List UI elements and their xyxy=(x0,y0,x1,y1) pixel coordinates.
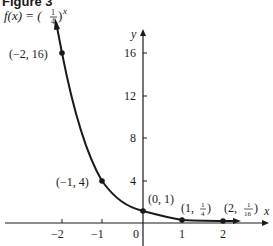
x-tick-1: 1 xyxy=(179,227,185,241)
svg-text:4: 4 xyxy=(51,17,55,26)
svg-text:): ) xyxy=(58,8,62,23)
function-label: f(x) = ( xyxy=(4,8,42,23)
y-tick-8: 8 xyxy=(130,131,136,145)
function-fraction: 1 4 ) x xyxy=(50,6,67,26)
x-tick-0: 0 xyxy=(133,227,139,241)
label-point-neg1: (−1, 4) xyxy=(56,175,89,189)
function-curve xyxy=(56,22,235,221)
y-tick-12: 12 xyxy=(124,89,136,103)
svg-text:(2,: (2, xyxy=(224,201,237,215)
point-neg1 xyxy=(99,178,105,184)
svg-text:): ) xyxy=(207,201,211,215)
y-axis-label: y xyxy=(130,27,137,41)
svg-text:): ) xyxy=(254,201,258,215)
exponential-graph: Figure 3 f(x) = ( 1 4 ) x x −2 −1 0 1 2 … xyxy=(0,0,273,246)
svg-text:4: 4 xyxy=(201,210,205,218)
point-neg2 xyxy=(59,50,65,56)
point-0 xyxy=(140,208,146,214)
label-point-neg2: (−2, 16) xyxy=(9,47,48,61)
svg-text:16: 16 xyxy=(244,210,252,218)
svg-text:(1,: (1, xyxy=(181,201,194,215)
x-tick-2: 2 xyxy=(220,227,226,241)
point-1 xyxy=(179,217,185,223)
x-axis-label: x xyxy=(263,204,270,218)
label-point-1: (1, 1 4 ) xyxy=(181,201,211,218)
y-tick-16: 16 xyxy=(124,46,136,60)
svg-text:x: x xyxy=(62,6,67,16)
x-tick-neg2: −2 xyxy=(51,227,64,241)
y-tick-4: 4 xyxy=(130,174,136,188)
svg-text:1: 1 xyxy=(247,201,251,209)
x-tick-neg1: −1 xyxy=(91,227,104,241)
label-point-0: (0, 1) xyxy=(148,192,174,206)
svg-text:1: 1 xyxy=(201,201,205,209)
label-point-2: (2, 1 16 ) xyxy=(224,201,258,218)
svg-text:1: 1 xyxy=(51,8,55,17)
point-2 xyxy=(220,218,226,224)
